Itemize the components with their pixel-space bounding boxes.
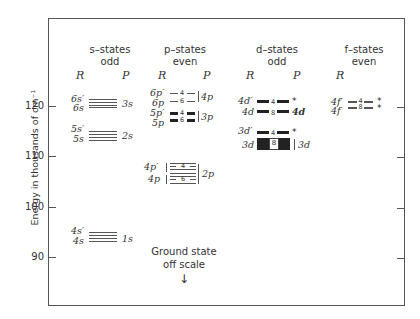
level-line bbox=[89, 105, 117, 106]
bracket bbox=[166, 163, 167, 172]
level-line bbox=[170, 179, 176, 180]
label-2p: 2p bbox=[202, 169, 214, 179]
label-4f: 4f bbox=[331, 106, 341, 116]
degeneracy-3d-prime: 4 bbox=[269, 130, 277, 137]
degeneracy-6p: 6 bbox=[179, 98, 185, 105]
level-line bbox=[190, 166, 196, 167]
degeneracy-4p: 6 bbox=[177, 176, 189, 183]
level-band bbox=[257, 131, 269, 134]
level-line bbox=[187, 101, 195, 102]
level-line bbox=[187, 93, 195, 94]
label-3d-prime: 3d′ bbox=[238, 126, 252, 136]
ground-state-note: Ground state off scale ↓ bbox=[148, 245, 220, 287]
tick-120-right bbox=[397, 107, 405, 108]
level-line bbox=[89, 241, 117, 242]
label-1s: 1s bbox=[122, 234, 133, 244]
level-line bbox=[170, 93, 178, 94]
level-line bbox=[348, 107, 357, 109]
level-block bbox=[257, 138, 269, 150]
level-band bbox=[277, 131, 289, 134]
level-band bbox=[187, 112, 195, 115]
label-6s: 6s bbox=[73, 103, 84, 113]
level-band bbox=[277, 100, 289, 103]
star-4f: * bbox=[377, 104, 382, 113]
column-header-p: p–states even bbox=[155, 44, 215, 68]
level-line bbox=[170, 183, 196, 184]
degeneracy-3d: 8 bbox=[269, 140, 279, 147]
label-4d-prime: 4d′ bbox=[238, 96, 252, 106]
level-line bbox=[170, 166, 176, 167]
level-line bbox=[190, 179, 196, 180]
tick-100-left bbox=[48, 207, 56, 208]
level-block bbox=[279, 138, 290, 150]
level-line bbox=[89, 238, 117, 239]
column-parity-p: even bbox=[155, 56, 215, 68]
level-line bbox=[89, 107, 117, 108]
star-4d-prime: * bbox=[292, 97, 297, 106]
level-line bbox=[89, 102, 117, 103]
column-parity-s: odd bbox=[80, 56, 140, 68]
header-p-s: P bbox=[122, 69, 129, 82]
header-r-s: R bbox=[76, 69, 84, 82]
level-band bbox=[187, 119, 195, 122]
column-header-s: s–states odd bbox=[80, 44, 140, 68]
label-4d-p: 4d bbox=[292, 107, 305, 117]
star-3d-prime: * bbox=[292, 128, 297, 137]
column-header-d: d–states odd bbox=[247, 44, 307, 68]
label-5s: 5s bbox=[73, 134, 84, 144]
level-line bbox=[89, 99, 117, 100]
level-line bbox=[89, 232, 117, 233]
bracket bbox=[198, 164, 199, 184]
tick-90-right bbox=[397, 258, 405, 259]
level-line bbox=[170, 101, 178, 102]
bracket bbox=[294, 139, 295, 150]
bracket bbox=[198, 91, 199, 102]
header-r-p: R bbox=[158, 69, 166, 82]
column-header-f: f–states even bbox=[334, 44, 394, 68]
level-line bbox=[89, 235, 117, 236]
tick-110-right bbox=[397, 157, 405, 158]
column-title-f: f–states bbox=[334, 44, 394, 56]
header-p-d: P bbox=[293, 69, 300, 82]
label-4s: 4s bbox=[73, 236, 84, 246]
label-3d-p: 3d bbox=[298, 140, 310, 150]
bracket bbox=[198, 111, 199, 122]
degeneracy-5p: 6 bbox=[179, 117, 185, 124]
column-parity-f: even bbox=[334, 56, 394, 68]
label-5p: 5p bbox=[152, 118, 164, 128]
tick-label-90: 90 bbox=[18, 251, 44, 262]
header-r-d: R bbox=[246, 69, 254, 82]
label-4p-prime: 4p′ bbox=[144, 162, 158, 172]
level-line bbox=[170, 173, 196, 174]
column-title-d: d–states bbox=[247, 44, 307, 56]
degeneracy-6p-prime: 4 bbox=[179, 90, 185, 97]
y-axis-label: Energy in thousands of cm⁻¹ bbox=[29, 106, 40, 226]
level-line bbox=[348, 101, 357, 103]
level-line bbox=[364, 101, 373, 103]
column-title-s: s–states bbox=[80, 44, 140, 56]
label-4d: 4d bbox=[242, 107, 254, 117]
tick-110-left bbox=[48, 156, 56, 157]
tick-100-right bbox=[397, 208, 405, 209]
level-line bbox=[364, 107, 373, 109]
degeneracy-4d: 8 bbox=[269, 110, 277, 117]
level-band bbox=[257, 100, 269, 103]
ground-state-line2: off scale bbox=[148, 258, 220, 271]
tick-120-left bbox=[48, 106, 56, 107]
label-3p: 3p bbox=[201, 112, 213, 122]
header-p-p: P bbox=[203, 69, 210, 82]
label-2s: 2s bbox=[122, 131, 133, 141]
down-arrow-icon: ↓ bbox=[148, 271, 220, 287]
level-line bbox=[89, 140, 117, 141]
label-3d: 3d bbox=[242, 140, 254, 150]
label-3s: 3s bbox=[122, 99, 133, 109]
label-4p: 4p bbox=[148, 174, 160, 184]
level-line bbox=[89, 134, 117, 135]
level-line bbox=[89, 137, 117, 138]
level-band bbox=[170, 112, 178, 115]
level-band bbox=[277, 110, 289, 113]
column-title-p: p–states bbox=[155, 44, 215, 56]
degeneracy-4d-prime: 4 bbox=[269, 99, 277, 106]
bracket bbox=[166, 175, 167, 184]
level-line bbox=[89, 131, 117, 132]
